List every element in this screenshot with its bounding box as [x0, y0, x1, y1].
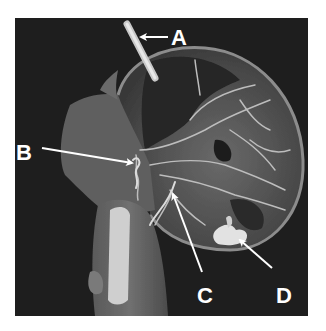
label-b: B	[16, 140, 32, 165]
label-a: A	[171, 25, 187, 50]
label-c: C	[197, 283, 213, 308]
label-d: D	[276, 283, 292, 308]
angiography-figure: A B C D	[0, 0, 326, 331]
